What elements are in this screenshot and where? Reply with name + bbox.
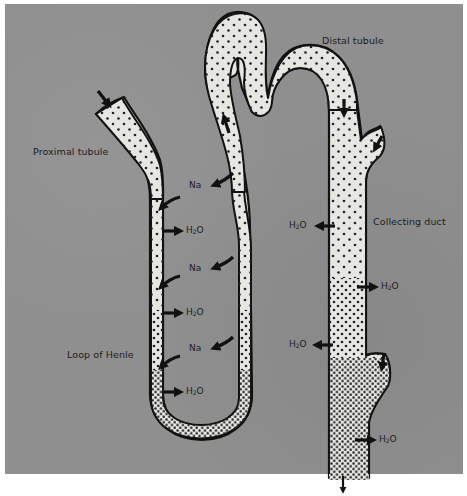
water-symbol-o: O [197, 386, 204, 396]
water-symbol-h: H [186, 307, 193, 317]
water-symbol-h: H [186, 225, 193, 235]
water-symbol-o: O [390, 434, 397, 444]
na-arrow-3-from-ascending [214, 337, 233, 348]
label-collecting-duct: Collecting duct [373, 216, 446, 227]
label-water-2: H2O [186, 307, 204, 317]
inflow-arrow-duct-branch-2 [382, 353, 384, 368]
label-water-4: H2O [289, 220, 307, 230]
na-arrow-1-from-ascending [214, 173, 233, 185]
label-proximal-tubule: Proximal tubule [33, 146, 109, 157]
na-arrow-2-from-ascending [214, 257, 233, 268]
label-sodium-2: Na [189, 263, 201, 273]
water-symbol-o: O [300, 339, 307, 349]
label-loop-of-henle: Loop of Henle [67, 349, 134, 360]
label-water-7: H2O [379, 434, 397, 444]
label-water-5: H2O [381, 281, 399, 291]
label-distal-tubule: Distal tubule [322, 35, 384, 46]
inflow-arrow-proximal [98, 91, 109, 105]
label-sodium-1: Na [189, 180, 201, 190]
water-symbol-h: H [186, 386, 193, 396]
water-symbol-o: O [300, 220, 307, 230]
water-symbol-o: O [197, 225, 204, 235]
label-water-6: H2O [289, 339, 307, 349]
water-symbol-h: H [289, 339, 296, 349]
water-symbol-o: O [392, 281, 399, 291]
water-symbol-o: O [197, 307, 204, 317]
label-sodium-3: Na [189, 343, 201, 353]
label-water-3: H2O [186, 386, 204, 396]
water-symbol-h: H [381, 281, 388, 291]
nephron-diagram [0, 0, 467, 496]
label-water-1: H2O [186, 225, 204, 235]
water-symbol-h: H [289, 220, 296, 230]
water-symbol-h: H [379, 434, 386, 444]
